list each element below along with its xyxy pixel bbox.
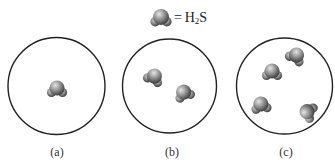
h2s-molecule-icon bbox=[47, 80, 67, 97]
panel-a bbox=[8, 38, 105, 135]
legend-h2s-molecule-icon bbox=[150, 9, 171, 27]
h2s-molecule-icon bbox=[172, 81, 197, 104]
legend-formula: = H2S bbox=[174, 10, 207, 29]
panel-c bbox=[237, 38, 333, 134]
equals-sign: = bbox=[174, 10, 182, 25]
h2s-molecule-icon bbox=[250, 95, 272, 114]
container-circle-b bbox=[123, 39, 217, 133]
formula-h: H bbox=[185, 10, 195, 25]
container-circle-c bbox=[237, 38, 333, 134]
panel-label-a: (a) bbox=[42, 145, 72, 160]
formula-s: S bbox=[199, 10, 207, 25]
h2s-molecule-icon bbox=[296, 100, 319, 125]
panel-label-c: (c) bbox=[271, 145, 301, 160]
diagram-canvas bbox=[0, 0, 335, 166]
h2s-molecule-icon bbox=[262, 63, 282, 80]
h2s-molecule-icon bbox=[141, 65, 166, 89]
panel-b bbox=[123, 39, 217, 133]
h2s-molecule-icon bbox=[283, 44, 309, 69]
panel-label-b: (b) bbox=[157, 145, 187, 160]
